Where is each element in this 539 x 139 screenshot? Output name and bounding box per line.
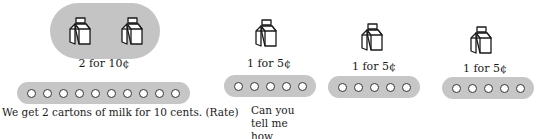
- coin-icon: [298, 82, 307, 91]
- price-label-1-for-5: 1 for 5¢: [352, 60, 396, 73]
- price-label-1-for-5: 1 for 5¢: [247, 57, 291, 70]
- coin-icon: [155, 89, 164, 98]
- coin-icon: [468, 84, 477, 93]
- coin-icon: [338, 83, 347, 92]
- rate-caption: We get 2 cartons of milk for 10 cents. (…: [2, 106, 239, 118]
- coin-icon: [402, 83, 411, 92]
- milk-carton-icon: [66, 16, 92, 46]
- carton-pair-pill: [50, 3, 160, 59]
- coin-icon: [370, 83, 379, 92]
- coin-bar-5: [328, 76, 420, 98]
- coin-icon: [171, 89, 180, 98]
- coin-icon: [107, 89, 116, 98]
- coin-icon: [500, 84, 509, 93]
- coin-icon: [59, 89, 68, 98]
- coin-icon: [234, 82, 243, 91]
- price-label-2-for-10: 2 for 10¢: [79, 57, 130, 70]
- coin-icon: [354, 83, 363, 92]
- coin-icon: [139, 89, 148, 98]
- coin-icon: [386, 83, 395, 92]
- coin-icon: [452, 84, 461, 93]
- coin-icon: [266, 82, 275, 91]
- coin-icon: [91, 89, 100, 98]
- coin-icon: [250, 82, 259, 91]
- coin-icon: [43, 89, 52, 98]
- coin-bar-5: [224, 75, 316, 97]
- coin-bar-10: [17, 82, 190, 104]
- milk-carton-icon: [467, 25, 493, 55]
- milk-carton-icon: [252, 18, 278, 48]
- milk-carton-icon: [358, 22, 384, 52]
- coin-icon: [516, 84, 525, 93]
- coin-icon: [27, 89, 36, 98]
- question-line-1: Can you tell me how much one carton of m…: [251, 104, 296, 139]
- coin-icon: [123, 89, 132, 98]
- price-label-1-for-5: 1 for 5¢: [463, 62, 507, 75]
- milk-carton-icon: [118, 16, 144, 46]
- coin-icon: [484, 84, 493, 93]
- coin-bar-5: [442, 77, 534, 99]
- coin-icon: [75, 89, 84, 98]
- question-text: Can you tell me how much one carton of m…: [251, 104, 296, 139]
- coin-icon: [282, 82, 291, 91]
